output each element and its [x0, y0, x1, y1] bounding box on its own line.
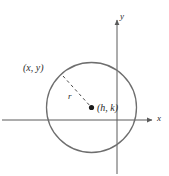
center-point-marker: [89, 105, 94, 110]
radius-label: r: [68, 92, 72, 101]
point-on-circle-label: (x, y): [23, 63, 44, 73]
center-point-label: (h, k): [97, 103, 118, 113]
diagram-canvas: [0, 0, 169, 176]
circle-diagram-figure: (x, y) (h, k) r x y: [0, 0, 169, 176]
y-axis-label: y: [120, 12, 124, 21]
x-axis-label: x: [157, 114, 161, 123]
